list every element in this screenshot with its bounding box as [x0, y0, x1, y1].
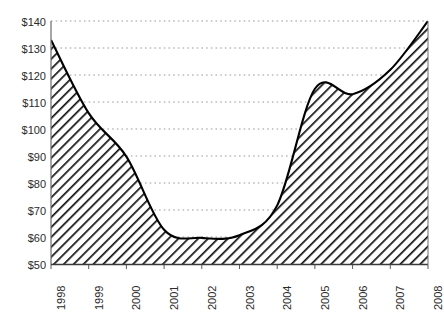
x-axis-tick-label: 2007	[395, 286, 406, 310]
x-axis-tick-label: 2000	[131, 286, 142, 310]
x-axis-tick-label: 2002	[207, 286, 218, 310]
x-axis-tick-label: 2008	[433, 286, 444, 310]
x-axis: 1998 1999 2000 2001 2002 2003 2004 2005 …	[0, 0, 444, 316]
x-axis-tick-label: 2006	[358, 286, 369, 310]
x-axis-tick-label: 2001	[169, 286, 180, 310]
area-chart: $140 $130 $120 $110 $100 $90 $80 $70 $60…	[0, 0, 444, 316]
x-axis-tick-label: 2003	[245, 286, 256, 310]
x-axis-tick-label: 2005	[320, 286, 331, 310]
x-axis-tick-label: 2004	[282, 286, 293, 310]
x-axis-tick-label: 1999	[94, 286, 105, 310]
x-axis-tick-label: 1998	[56, 286, 67, 310]
